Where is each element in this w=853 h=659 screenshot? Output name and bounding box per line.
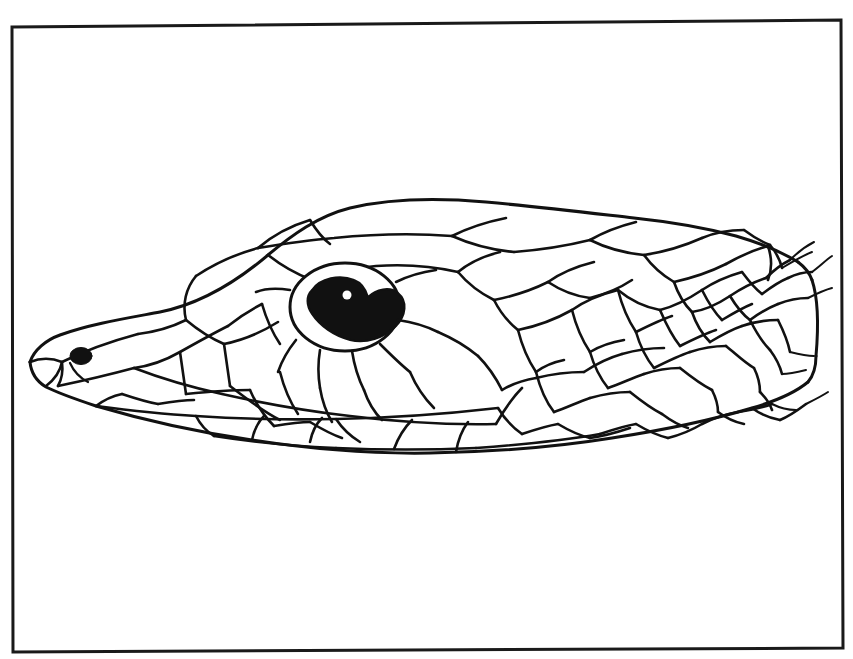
paper-background bbox=[0, 0, 853, 659]
figure-illustration bbox=[0, 0, 853, 659]
eye-highlight bbox=[343, 291, 352, 300]
page-canvas bbox=[0, 0, 853, 659]
